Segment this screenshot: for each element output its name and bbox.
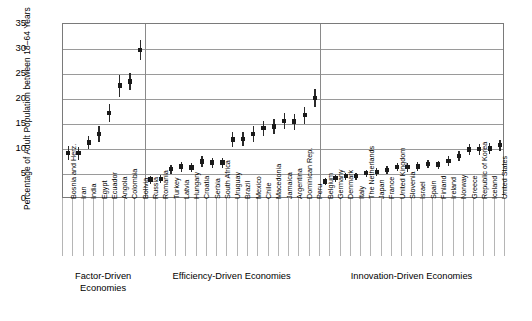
category-tick xyxy=(103,198,104,256)
point-marker xyxy=(107,111,111,115)
category-label-text: Mexico xyxy=(255,176,262,200)
category-tick xyxy=(216,198,217,256)
gridline-10 xyxy=(63,149,503,150)
gridline-5 xyxy=(63,174,503,175)
group-caption-line-1: Efficiency-Driven Economies xyxy=(152,271,312,283)
category-label-text: Romania xyxy=(162,170,169,200)
point-marker xyxy=(128,79,132,83)
chart-figure: Percentage of Adult Population between 1… xyxy=(0,0,532,321)
category-tick xyxy=(226,198,227,256)
category-tick xyxy=(309,198,310,256)
point-marker xyxy=(457,154,461,158)
category-tick xyxy=(453,198,454,256)
category-tick xyxy=(278,198,279,256)
category-label-text: Dominican Rep. xyxy=(306,148,313,200)
category-label-text: Croatia xyxy=(203,176,210,200)
category-tick xyxy=(72,198,73,256)
category-label-text: India xyxy=(90,183,97,200)
point-marker xyxy=(241,137,245,141)
point-marker xyxy=(210,160,214,164)
category-tick xyxy=(411,198,412,256)
category-label-text: Russia xyxy=(152,177,159,200)
category-tick xyxy=(247,198,248,256)
category-label-text: Israel xyxy=(419,181,426,200)
y-tick-label-30: 30 xyxy=(0,43,26,53)
point-marker xyxy=(261,126,265,130)
point-marker xyxy=(138,48,142,52)
gridline-30 xyxy=(63,49,503,50)
category-label-text: Iran xyxy=(80,187,87,200)
category-tick xyxy=(329,198,330,256)
category-tick xyxy=(237,198,238,256)
point-marker xyxy=(200,159,204,163)
category-label-text: Hungary xyxy=(193,172,200,200)
plot-area xyxy=(62,23,504,198)
y-tick-label-0: 0 xyxy=(0,193,26,203)
group-separator-1 xyxy=(145,24,146,197)
category-label-text: Ireland xyxy=(450,177,457,200)
category-tick xyxy=(340,198,341,256)
category-tick xyxy=(391,198,392,256)
category-label-text: Uruguay xyxy=(234,172,241,200)
category-label-text: The Netherlands xyxy=(368,146,375,200)
point-marker xyxy=(467,147,471,151)
category-label-text: Angola xyxy=(121,177,128,200)
category-label-text: Argentina xyxy=(296,168,303,200)
category-tick xyxy=(62,198,63,256)
point-marker xyxy=(87,140,91,144)
category-tick xyxy=(93,198,94,256)
category-tick xyxy=(113,198,114,256)
category-label-text: United States xyxy=(501,156,508,200)
group-caption-line-2: Economies xyxy=(23,283,183,295)
gridline-20 xyxy=(63,99,503,100)
category-tick xyxy=(319,198,320,256)
category-label-text: Serbia xyxy=(214,178,221,200)
category-tick xyxy=(185,198,186,256)
category-label-text: Republic of Korea xyxy=(481,142,488,200)
category-tick xyxy=(473,198,474,256)
category-tick xyxy=(257,198,258,256)
category-tick xyxy=(206,198,207,256)
category-label-text: Iceland xyxy=(491,176,498,200)
category-label-text: Chile xyxy=(265,183,272,200)
category-tick xyxy=(360,198,361,256)
point-marker xyxy=(498,143,502,147)
category-tick xyxy=(144,198,145,256)
category-label-text: Greece xyxy=(471,175,478,200)
category-label-text: Ecuador xyxy=(111,172,118,200)
category-label-text: Spain xyxy=(430,181,437,200)
category-label-text: Brazil xyxy=(244,181,251,200)
point-marker xyxy=(282,119,286,123)
y-tick-label-10: 10 xyxy=(0,143,26,153)
category-label-text: South Africa xyxy=(224,160,231,200)
category-label-text: France xyxy=(388,177,395,200)
category-label-text: Belgium xyxy=(327,173,334,200)
category-tick xyxy=(350,198,351,256)
point-marker xyxy=(426,162,430,166)
category-tick xyxy=(432,198,433,256)
category-tick xyxy=(83,198,84,256)
point-marker xyxy=(231,137,235,141)
category-label-text: Japan xyxy=(378,179,385,200)
category-label-text: Germany xyxy=(337,169,344,200)
point-marker xyxy=(303,113,307,117)
category-label-text: Norway xyxy=(460,175,467,200)
point-marker xyxy=(313,96,317,100)
category-tick xyxy=(298,198,299,256)
category-tick xyxy=(494,198,495,256)
category-tick xyxy=(401,198,402,256)
category-tick xyxy=(165,198,166,256)
group-caption-innovation-driven-economies: Innovation-Driven Economies xyxy=(331,271,491,283)
point-marker xyxy=(251,132,255,136)
category-label-text: Slovenia xyxy=(409,171,416,200)
category-label-text: Italy xyxy=(358,186,365,200)
category-label-text: Peru xyxy=(316,184,323,200)
point-marker xyxy=(385,168,389,172)
category-tick xyxy=(504,198,505,256)
y-tick-label-5: 5 xyxy=(0,168,26,178)
category-tick xyxy=(381,198,382,256)
category-tick xyxy=(463,198,464,256)
point-marker xyxy=(189,165,193,169)
category-tick xyxy=(442,198,443,256)
category-label-text: Egypt xyxy=(101,181,108,200)
